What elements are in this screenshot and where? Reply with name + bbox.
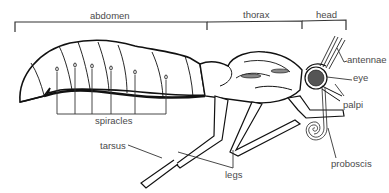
label-abdomen: abdomen <box>90 10 130 21</box>
thorax-shape <box>200 52 302 103</box>
legs-shapes <box>141 96 344 188</box>
label-eye: eye <box>353 72 368 83</box>
label-proboscis: proboscis <box>331 158 372 169</box>
head-shape <box>305 64 327 89</box>
label-thorax: thorax <box>243 9 270 20</box>
label-spiracles: spiracles <box>95 115 133 126</box>
region-brackets <box>15 20 346 32</box>
label-tarsus: tarsus <box>100 140 126 151</box>
compound-eye <box>308 70 324 86</box>
tarsus-leader <box>128 145 162 158</box>
insect-anatomy-diagram: abdomen thorax head spir <box>0 0 389 193</box>
eye-leader <box>327 77 352 80</box>
proboscis-leader <box>328 128 336 158</box>
abdomen-shape <box>20 40 205 102</box>
label-legs: legs <box>225 169 243 180</box>
antennae-shapes <box>320 36 345 69</box>
label-antennae: antennae <box>347 54 387 65</box>
antennae-leader <box>337 48 347 62</box>
label-head: head <box>316 9 337 20</box>
label-palpi: palpi <box>343 99 363 110</box>
